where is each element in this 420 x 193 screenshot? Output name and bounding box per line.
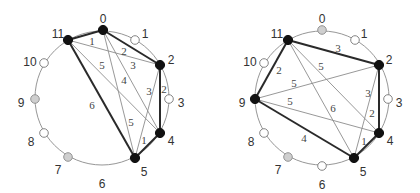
edge-9-4 xyxy=(255,99,379,133)
node-label: 8 xyxy=(28,135,35,149)
right-graph: 321425556301234567891011 xyxy=(239,12,403,192)
node-1-marker xyxy=(131,36,140,45)
node-label: 10 xyxy=(243,55,257,69)
edge-11-0 xyxy=(68,30,103,40)
node-label: 6 xyxy=(319,178,326,192)
edge-weight-label: 4 xyxy=(301,132,307,144)
node-8-marker xyxy=(40,129,49,138)
node-0-marker xyxy=(98,25,107,34)
node-label: 3 xyxy=(396,96,403,110)
node-11-marker xyxy=(63,35,72,44)
node-11-marker xyxy=(283,35,292,44)
edge-weight-label: 4 xyxy=(121,74,127,86)
node-1-marker xyxy=(351,36,360,45)
edge-weight-label: 5 xyxy=(287,95,293,107)
node-label: 0 xyxy=(100,12,107,26)
edge-5-9 xyxy=(255,99,354,158)
node-label: 11 xyxy=(52,27,65,41)
node-7-marker xyxy=(284,153,293,162)
node-2-marker xyxy=(374,60,383,69)
edge-weight-label: 3 xyxy=(335,42,341,54)
edge-weight-label: 3 xyxy=(130,59,136,71)
node-label: 1 xyxy=(142,27,149,41)
diagram-canvas: 123216545301234567891011 321425556301234… xyxy=(0,0,420,193)
node-4-marker xyxy=(374,128,383,137)
edge-weight-label: 2 xyxy=(276,64,282,76)
node-3-marker xyxy=(384,95,393,104)
edge-weight-label: 3 xyxy=(146,85,152,97)
edge-weight-label: 2 xyxy=(161,83,167,95)
edge-9-11 xyxy=(255,40,288,99)
edge-weight-label: 5 xyxy=(291,77,297,89)
node-label: 9 xyxy=(239,96,246,110)
node-2-marker xyxy=(155,60,164,69)
edge-weight-label: 5 xyxy=(128,116,134,128)
node-label: 0 xyxy=(319,12,326,26)
node-label: 2 xyxy=(168,53,175,67)
node-label: 4 xyxy=(387,134,394,148)
node-5-marker xyxy=(130,153,139,162)
node-label: 2 xyxy=(386,53,393,67)
node-label: 5 xyxy=(141,165,148,179)
edge-weight-label: 1 xyxy=(89,35,95,47)
node-0-marker xyxy=(318,26,327,35)
edge-weight-label: 1 xyxy=(141,134,147,146)
node-label: 6 xyxy=(99,177,106,191)
edge-weight-label: 5 xyxy=(318,60,324,72)
node-7-marker xyxy=(64,153,73,162)
node-label: 10 xyxy=(23,55,37,69)
node-5-marker xyxy=(349,153,358,162)
edge-weight-label: 5 xyxy=(99,59,105,71)
node-10-marker xyxy=(40,59,49,68)
edge-0-5 xyxy=(103,30,135,158)
node-10-marker xyxy=(260,59,269,68)
node-6-marker xyxy=(318,162,327,171)
node-4-marker xyxy=(155,128,164,137)
edge-weight-label: 1 xyxy=(361,135,367,147)
edge-11-5 xyxy=(68,40,135,158)
left-graph: 123216545301234567891011 xyxy=(18,12,185,191)
edge-weight-label: 6 xyxy=(330,102,336,114)
node-8-marker xyxy=(260,129,269,138)
node-label: 7 xyxy=(55,163,62,177)
node-label: 1 xyxy=(361,27,368,41)
edge-weight-label: 2 xyxy=(121,45,127,57)
edge-11-2 xyxy=(288,40,379,65)
edge-11-5 xyxy=(288,40,354,158)
node-label: 8 xyxy=(248,135,255,149)
node-9-marker xyxy=(31,95,40,104)
node-3-marker xyxy=(165,95,174,104)
node-label: 5 xyxy=(360,165,367,179)
node-label: 9 xyxy=(18,96,25,110)
node-label: 3 xyxy=(178,96,185,110)
edge-weight-label: 3 xyxy=(365,87,371,99)
node-label: 7 xyxy=(275,163,282,177)
edge-11-2 xyxy=(68,40,160,65)
node-9-marker xyxy=(250,94,259,103)
node-label: 4 xyxy=(168,134,175,148)
node-label: 11 xyxy=(271,27,284,41)
edge-weight-label: 2 xyxy=(369,107,375,119)
edge-weight-label: 6 xyxy=(89,99,95,111)
